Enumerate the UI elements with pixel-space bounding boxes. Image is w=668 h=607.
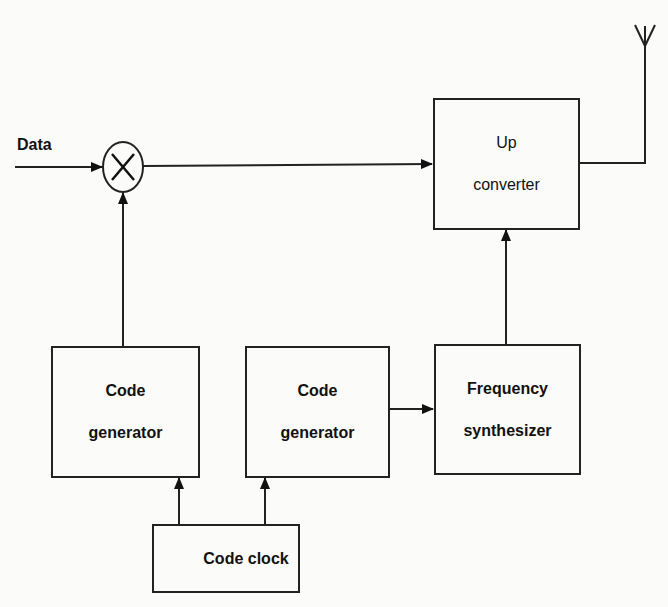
frequency-synthesizer-block: Frequency synthesizer — [434, 344, 581, 475]
upconverter-block: Up converter — [433, 98, 580, 230]
code-clock-block: Code clock — [152, 524, 300, 593]
antenna-icon — [635, 25, 655, 46]
code-clock-label: Code clock — [203, 550, 288, 568]
code-generator-1-block: Code generator — [51, 346, 200, 478]
code-generator-2-line2: generator — [281, 424, 355, 442]
frequency-synthesizer-line2: synthesizer — [463, 422, 551, 440]
upconverter-line2: converter — [473, 176, 540, 194]
code-generator-2-block: Code generator — [245, 346, 390, 478]
upconverter-line1: Up — [496, 134, 516, 152]
code-generator-1-line1: Code — [106, 382, 146, 400]
wiring-layer — [0, 0, 668, 607]
frequency-synthesizer-line1: Frequency — [467, 380, 548, 398]
upconverter-to-antenna-line — [579, 46, 645, 163]
mixer-to-upconverter-arrow — [143, 164, 432, 166]
data-input-label: Data — [17, 136, 52, 154]
code-generator-1-line2: generator — [89, 424, 163, 442]
mixer-multiply-icon — [103, 142, 143, 192]
code-generator-2-line1: Code — [298, 382, 338, 400]
